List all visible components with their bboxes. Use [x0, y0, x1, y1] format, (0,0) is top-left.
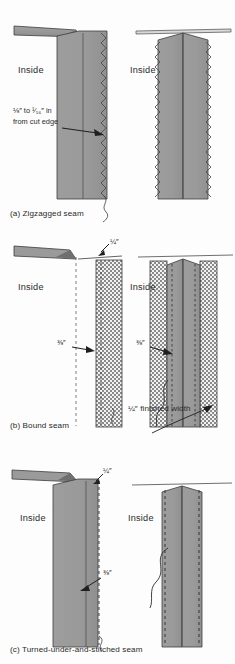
top-measurement-label: ¼″	[103, 466, 112, 475]
seam-finishes-figure: Inside ⅛″ to ¹⁄₁₆″ in from cut edge	[0, 0, 235, 664]
fabric-layer-right	[183, 33, 208, 199]
side-measurement-label: ⅜″	[103, 568, 112, 577]
top-measure-leader	[96, 474, 103, 481]
side-measure-arrowhead	[86, 346, 95, 353]
panel-a-right-view: Inside	[130, 29, 231, 199]
side-measurement-label: ⅜″	[57, 338, 66, 347]
top-measure-leader	[101, 244, 109, 252]
panel-turned-under-seam: Inside ¼″ ⅜″ Inside	[0, 440, 235, 664]
top-measurement-label: ¼″	[110, 237, 119, 246]
fabric-layer-right	[183, 259, 200, 427]
panel-c-right-view: Inside	[128, 483, 232, 647]
binding-strip	[96, 260, 122, 427]
panel-c-illustration: Inside ¼″ ⅜″ Inside	[0, 440, 235, 664]
garment-edge	[138, 255, 233, 257]
garment-edge	[132, 483, 232, 485]
finished-width-label: ¼″ finished width	[128, 404, 191, 413]
panel-c-left-view: Inside ¼″ ⅜″	[12, 466, 112, 651]
inside-label-left: Inside	[18, 282, 44, 292]
panel-a-left-view: Inside ⅛″ to ¹⁄₁₆″ in from cut edge	[13, 26, 108, 222]
binding-strip-right	[200, 261, 217, 427]
panel-a-illustration: Inside ⅛″ to ¹⁄₁₆″ in from cut edge	[0, 0, 235, 228]
measurement-note-line1: ⅛″ to ¹⁄₁₆″ in	[13, 106, 52, 115]
inside-label-right: Inside	[130, 282, 156, 292]
panel-bound-seam: Inside ¼″ ⅜″	[0, 228, 235, 440]
panel-b-left-view: Inside ¼″ ⅜″	[14, 237, 122, 427]
fabric-layer-left	[158, 33, 183, 199]
binding-top-edge	[78, 256, 122, 259]
inside-label-left: Inside	[18, 65, 44, 75]
fabric-layer-left	[167, 259, 183, 427]
caption-bound-seam: (b) Bound seam	[10, 421, 69, 430]
measurement-note-line2: from cut edge	[13, 117, 58, 126]
fabric-panel	[57, 31, 107, 199]
panel-b-illustration: Inside ¼″ ⅜″	[0, 228, 235, 440]
inside-label-right: Inside	[128, 513, 154, 523]
inside-label-right: Inside	[130, 65, 156, 75]
inside-label-left: Inside	[20, 513, 46, 523]
caption-zigzagged-seam: (a) Zigzagged seam	[10, 209, 84, 218]
fabric-panel	[53, 479, 98, 647]
thread-tail	[103, 196, 108, 222]
panel-zigzagged-seam: Inside ⅛″ to ¹⁄₁₆″ in from cut edge	[0, 0, 235, 228]
side-measurement-label-right: ⅜″	[136, 338, 145, 347]
caption-turned-under-seam: (c) Turned-under-and-stitched seam	[10, 645, 143, 654]
